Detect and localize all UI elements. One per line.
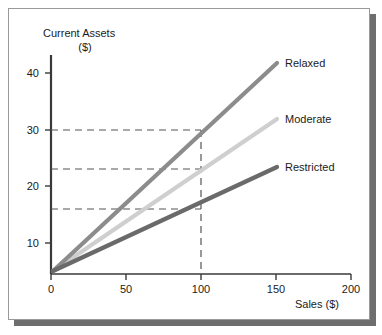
series-label-moderate: Moderate xyxy=(285,113,331,125)
x-axis-title: Sales ($) xyxy=(295,298,339,310)
series-line-moderate xyxy=(53,119,277,271)
y-tick-label-30: 30 xyxy=(27,124,39,136)
screenshot-root: Current Assets ($) Sales ($) 40 30 20 10 xyxy=(0,0,382,335)
x-tick-label-100: 100 xyxy=(192,283,210,295)
y-tick-label-10: 10 xyxy=(27,237,39,249)
y-axis-title-line2: ($) xyxy=(78,41,91,53)
x-tick-label-150: 150 xyxy=(267,283,285,295)
x-tick-label-50: 50 xyxy=(120,283,132,295)
figure-frame: Current Assets ($) Sales ($) 40 30 20 10 xyxy=(8,8,370,320)
x-tick-label-200: 200 xyxy=(342,283,360,295)
line-chart: Current Assets ($) Sales ($) 40 30 20 10 xyxy=(9,9,371,321)
series-line-relaxed xyxy=(53,63,277,271)
series-label-restricted: Restricted xyxy=(285,161,335,173)
x-tick-label-0: 0 xyxy=(48,283,54,295)
y-tick-label-40: 40 xyxy=(27,67,39,79)
series-label-relaxed: Relaxed xyxy=(285,57,325,69)
series-line-restricted xyxy=(53,167,277,271)
y-tick-label-20: 20 xyxy=(27,180,39,192)
y-axis-title-line1: Current Assets xyxy=(43,27,116,39)
